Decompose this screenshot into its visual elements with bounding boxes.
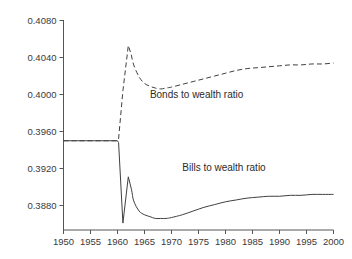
x-tick-label: 1975 [188, 236, 209, 247]
x-axis-ticks [64, 230, 334, 234]
y-axis-ticks [60, 21, 64, 206]
y-tick-label: 0.3960 [27, 126, 56, 137]
x-tick-label: 1995 [296, 236, 317, 247]
x-axis-tick-labels: 1950195519601965197019751980198519901995… [53, 236, 344, 247]
chart-container: 0.38800.39200.39600.40000.40400.4080 195… [0, 0, 352, 259]
y-tick-label: 0.3880 [27, 200, 56, 211]
line-chart: 0.38800.39200.39600.40000.40400.4080 195… [0, 0, 352, 259]
x-tick-label: 1955 [80, 236, 101, 247]
annotation-label: Bills to wealth ratio [182, 162, 266, 173]
series-line-bills-to-wealth-ratio [64, 141, 334, 223]
series-annotations: Bonds to wealth ratioBills to wealth rat… [150, 89, 266, 173]
y-tick-label: 0.4080 [27, 15, 56, 26]
y-tick-label: 0.4000 [27, 89, 56, 100]
series-lines [64, 45, 334, 223]
x-tick-label: 2000 [323, 236, 344, 247]
x-tick-label: 1960 [107, 236, 128, 247]
x-tick-label: 1980 [215, 236, 236, 247]
y-axis-tick-labels: 0.38800.39200.39600.40000.40400.4080 [27, 15, 56, 211]
y-tick-label: 0.4040 [27, 52, 56, 63]
x-tick-label: 1970 [161, 236, 182, 247]
x-tick-label: 1990 [269, 236, 290, 247]
x-tick-label: 1985 [242, 236, 263, 247]
y-tick-label: 0.3920 [27, 163, 56, 174]
x-tick-label: 1950 [53, 236, 74, 247]
x-tick-label: 1965 [134, 236, 155, 247]
annotation-label: Bonds to wealth ratio [150, 89, 244, 100]
